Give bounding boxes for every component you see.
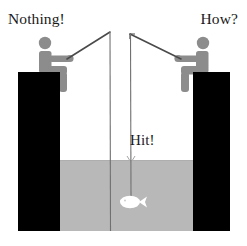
- caption-hit: Hit!: [130, 133, 155, 148]
- left-pier: [18, 72, 60, 231]
- comic-panel: Nothing! How? Hit!: [0, 0, 247, 246]
- right-angler-head: [197, 37, 209, 49]
- fishing-scene-illustration: [0, 0, 247, 246]
- right-angler-shin: [181, 72, 189, 92]
- caption-nothing: Nothing!: [8, 11, 65, 27]
- fish-eye: [124, 200, 126, 202]
- fish-body: [120, 196, 140, 208]
- right-pier: [193, 72, 230, 231]
- right-fishing-line[interactable]: [131, 34, 132, 197]
- left-fishing-line[interactable]: [110, 32, 111, 231]
- caption-how: How?: [201, 11, 238, 27]
- left-angler-head: [39, 37, 51, 49]
- left-angler-shin: [59, 72, 67, 92]
